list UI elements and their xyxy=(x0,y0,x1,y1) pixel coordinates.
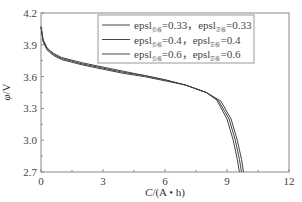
x-tick-label: 9 xyxy=(224,175,230,187)
x-tick-label: 3 xyxy=(100,175,106,187)
x-tick-label: 12 xyxy=(284,175,295,187)
legend: epsl负极=0.33，epsl正极=0.33epsl负极=0.4，epsl正极… xyxy=(98,15,254,63)
y-tick-label: 4.2 xyxy=(23,7,37,19)
x-tick-label: 0 xyxy=(38,175,44,187)
y-tick-label: 2.7 xyxy=(23,166,37,178)
y-tick-label: 3.0 xyxy=(23,134,37,146)
y-tick-label: 3.3 xyxy=(23,102,37,114)
legend-entry: epsl负极=0.4，epsl正极=0.4 xyxy=(134,34,241,48)
y-axis-label: φ/V xyxy=(0,83,12,100)
chart: 0369122.73.03.33.63.94.2 epsl负极=0.33，eps… xyxy=(0,0,302,202)
legend-entry: epsl负极=0.33，epsl正极=0.33 xyxy=(134,19,252,33)
y-tick-label: 3.9 xyxy=(23,39,37,51)
x-axis-label: C/(A • h) xyxy=(145,186,185,199)
legend-entry: epsl负极=0.6，epsl正极=0.6 xyxy=(134,48,241,62)
y-tick-label: 3.6 xyxy=(23,71,37,83)
